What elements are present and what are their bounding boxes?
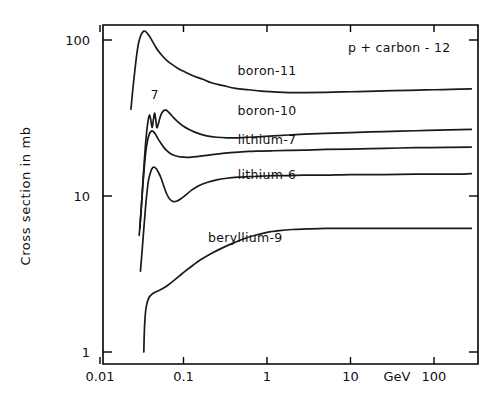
x-axis-unit-label: GeV — [384, 369, 411, 384]
series-label-lithium-6: lithium-6 — [238, 167, 297, 182]
cross-section-plot: 0.010.1110100 110100 boron-11boron-10lit… — [0, 0, 501, 405]
figure-container: 0.010.1110100 110100 boron-11boron-10lit… — [0, 0, 501, 405]
y-tick-label: 10 — [73, 189, 90, 204]
chart-annotations: 7 — [151, 88, 159, 102]
x-tick-label: 0.01 — [86, 369, 115, 384]
x-tick-label: 0.1 — [173, 369, 194, 384]
resonance-marker-7: 7 — [151, 88, 159, 102]
series-label-boron-10: boron-10 — [238, 103, 297, 118]
y-tick-label: 1 — [82, 345, 90, 360]
x-tick-label: 100 — [422, 369, 447, 384]
chart-title: p + carbon - 12 — [348, 40, 450, 55]
x-tick-label: 1 — [263, 369, 271, 384]
series-label-beryllium-9: beryllium-9 — [208, 230, 282, 245]
x-tick-label: 10 — [342, 369, 359, 384]
series-label-boron-11: boron-11 — [238, 63, 297, 78]
y-axis-title: Cross section in mb — [18, 126, 33, 265]
y-tick-label: 100 — [65, 33, 90, 48]
series-label-lithium-7: lithium-7 — [238, 132, 297, 147]
